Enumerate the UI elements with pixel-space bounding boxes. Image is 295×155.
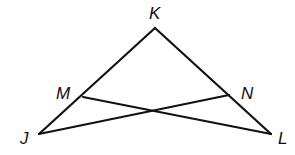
segment-KJ xyxy=(39,28,155,134)
vertex-label-N: N xyxy=(241,84,254,103)
segment-KL xyxy=(155,28,271,134)
vertex-label-M: M xyxy=(56,84,71,103)
geometry-diagram: K M N J L xyxy=(0,0,295,155)
vertex-label-L: L xyxy=(278,129,287,148)
vertex-label-K: K xyxy=(149,4,161,23)
vertex-label-J: J xyxy=(19,129,29,148)
